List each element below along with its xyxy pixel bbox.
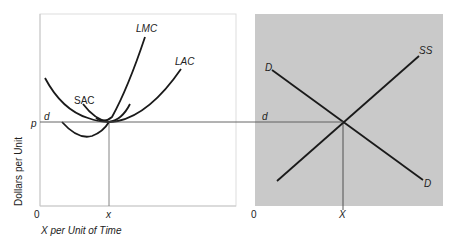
left-panel-firm: LMC LAC SAC p d 0 x X per Unit of Time D… — [13, 14, 236, 236]
left-panel-frame — [40, 14, 236, 206]
y-axis-title: Dollars per Unit — [13, 137, 24, 206]
left-quantity-label: x — [105, 209, 112, 220]
demand-bottom-label: D — [424, 178, 431, 189]
right-panel-industry: SS D D d 0 X — [251, 14, 443, 220]
lmc-label: LMC — [136, 23, 158, 34]
left-demand-label: d — [44, 111, 50, 122]
right-quantity-label: X — [338, 209, 346, 220]
right-origin-label: 0 — [251, 209, 257, 220]
lac-label: LAC — [175, 56, 195, 67]
smc-curve — [62, 122, 109, 137]
right-panel-shade — [255, 14, 443, 206]
economics-diagram: LMC LAC SAC p d 0 x X per Unit of Time D… — [0, 0, 456, 244]
left-origin-label: 0 — [34, 209, 40, 220]
sac-label: SAC — [74, 95, 95, 106]
x-axis-title: X per Unit of Time — [40, 225, 122, 236]
demand-top-label: D — [265, 62, 272, 73]
price-label: p — [30, 118, 37, 129]
supply-label: SS — [419, 45, 433, 56]
lmc-curve — [96, 37, 145, 121]
right-demand-label: d — [262, 111, 268, 122]
